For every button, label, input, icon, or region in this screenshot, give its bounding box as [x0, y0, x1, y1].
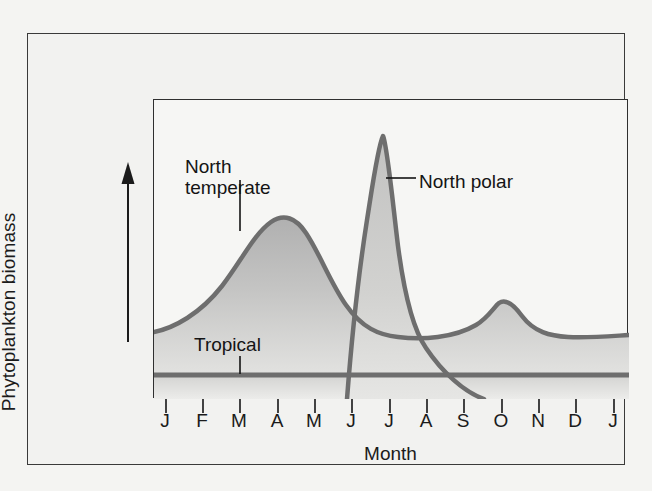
x-tick-label-9: S [450, 410, 476, 432]
x-tick-label-7: J [376, 410, 402, 432]
x-tick-label-11: N [525, 410, 551, 432]
x-tick-label-10: O [488, 410, 514, 432]
y-axis-title: Phytoplankton biomass [0, 162, 20, 462]
annotation-north-temperate: North temperate [185, 156, 271, 198]
x-tick-label-8: A [413, 410, 439, 432]
figure-outer-frame: Phytoplankton biomass [27, 33, 625, 465]
annotation-north-temperate-line1: North [185, 156, 271, 177]
annotation-north-polar: North polar [419, 171, 513, 192]
annotation-tropical: Tropical [194, 334, 261, 355]
x-tick-label-12: D [562, 410, 588, 432]
x-tick-label-1: J [152, 410, 178, 432]
up-arrow-icon [116, 160, 140, 344]
x-tick-label-13: J [600, 410, 626, 432]
x-axis-tick-labels: JFMAMJJASONDJ [153, 410, 628, 436]
figure-page: Phytoplankton biomass [0, 0, 652, 491]
x-tick-label-6: J [338, 410, 364, 432]
annotation-north-temperate-line2: temperate [185, 177, 271, 198]
x-tick-label-3: M [226, 410, 252, 432]
x-tick-label-5: M [301, 410, 327, 432]
x-tick-label-4: A [264, 410, 290, 432]
x-axis-title: Month [153, 443, 628, 465]
x-tick-label-2: F [189, 410, 215, 432]
